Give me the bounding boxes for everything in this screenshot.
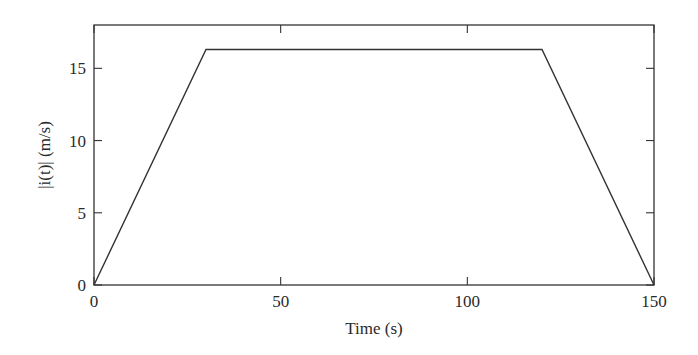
x-axis-title: Time (s) bbox=[345, 319, 402, 338]
x-tick-label: 100 bbox=[455, 292, 481, 311]
y-tick-label: 15 bbox=[69, 59, 86, 78]
plot-frame bbox=[94, 25, 654, 285]
series-line bbox=[94, 50, 654, 285]
x-tick-label: 50 bbox=[272, 292, 289, 311]
y-tick-label: 10 bbox=[69, 132, 86, 151]
x-tick-label: 150 bbox=[641, 292, 667, 311]
chart: 050100150051015 Time (s) |i(t)| (m/s) bbox=[0, 0, 698, 355]
tick-labels: 050100150051015 bbox=[69, 59, 667, 311]
y-tick-label: 0 bbox=[78, 276, 87, 295]
series-group bbox=[94, 50, 654, 285]
x-tick-label: 0 bbox=[90, 292, 99, 311]
y-axis-title: |i(t)| (m/s) bbox=[35, 121, 54, 189]
ticks bbox=[94, 25, 654, 285]
y-tick-label: 5 bbox=[78, 204, 87, 223]
